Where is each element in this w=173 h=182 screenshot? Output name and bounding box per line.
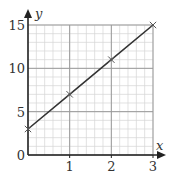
- y-tick-label: 10: [8, 61, 25, 76]
- x-tick-label: 1: [66, 159, 74, 174]
- x-tick-label: 3: [149, 159, 157, 174]
- y-tick-label: 5: [17, 105, 25, 120]
- line-chart: 123051015xy: [0, 0, 173, 182]
- y-axis-arrow-icon: [24, 9, 32, 18]
- x-tick-label: 2: [107, 159, 115, 174]
- y-tick-label: 0: [17, 148, 25, 163]
- y-axis-label: y: [34, 6, 43, 21]
- y-tick-label: 15: [8, 18, 25, 33]
- minor-grid: [28, 25, 153, 155]
- major-grid: [28, 25, 153, 155]
- x-axis-label: x: [156, 138, 164, 153]
